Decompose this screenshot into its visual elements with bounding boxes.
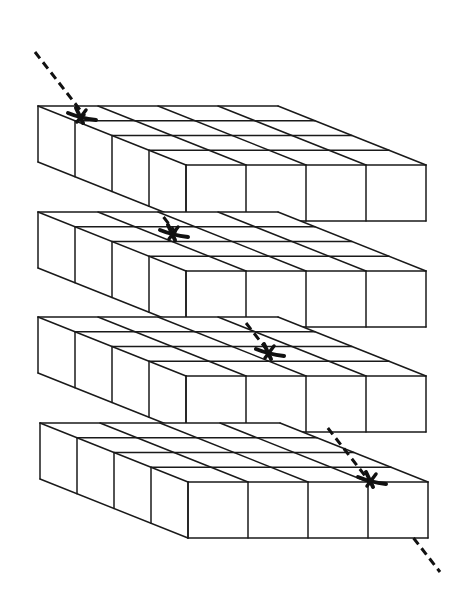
- slab-2: [38, 212, 426, 327]
- stacked-slabs-diagram: [0, 0, 462, 609]
- slab-3: [38, 317, 426, 432]
- dashed-segment: [414, 538, 440, 572]
- diagram-canvas: [0, 0, 462, 609]
- slab-1: [38, 106, 426, 221]
- slab-4: [40, 423, 428, 538]
